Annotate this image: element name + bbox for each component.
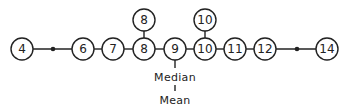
svg-text:6: 6 [79, 42, 87, 56]
node-9: 9 [164, 38, 186, 60]
node-6: 6 [72, 38, 94, 60]
node-11: 11 [224, 38, 246, 60]
svg-text:8: 8 [140, 13, 148, 27]
svg-text:11: 11 [227, 42, 242, 56]
mean-label: Mean [159, 94, 190, 107]
node-7: 7 [102, 38, 124, 60]
svg-text:10: 10 [197, 13, 212, 27]
stacked-node-8: 8 [133, 9, 155, 31]
svg-text:14: 14 [319, 42, 334, 56]
svg-text:12: 12 [257, 42, 272, 56]
svg-text:7: 7 [109, 42, 117, 56]
node-8: 8 [133, 38, 155, 60]
svg-text:10: 10 [197, 42, 212, 56]
node-10: 10 [194, 38, 216, 60]
svg-text:9: 9 [171, 42, 179, 56]
stacked-node-10: 10 [194, 9, 216, 31]
node-4: 4 [11, 38, 33, 60]
median-label: Median [154, 71, 196, 84]
gap-dot [295, 47, 300, 52]
number-line-diagram: 4 6 7 8 9 10 11 12 14 8 10 Median Mean [0, 0, 349, 111]
svg-text:4: 4 [18, 42, 26, 56]
node-12: 12 [254, 38, 276, 60]
node-14: 14 [316, 38, 338, 60]
gap-dot [51, 47, 56, 52]
svg-text:8: 8 [140, 42, 148, 56]
